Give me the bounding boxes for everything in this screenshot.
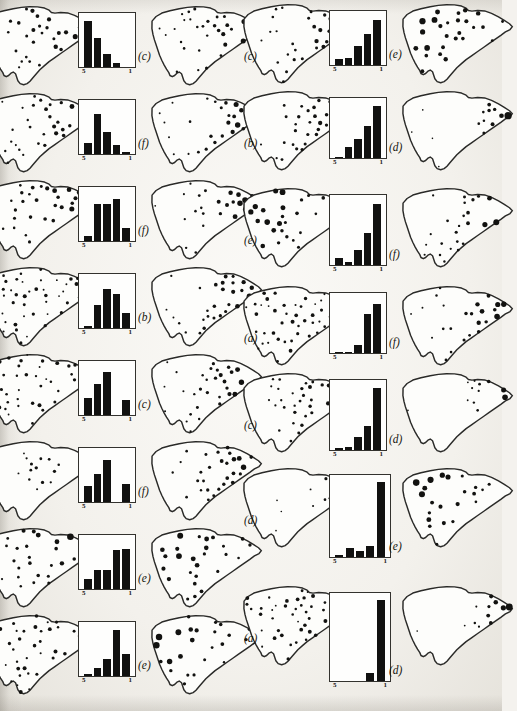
histogram-axis-labels: 51 — [78, 590, 136, 598]
map-symbol-dot — [311, 594, 315, 598]
histogram-bar — [122, 400, 129, 415]
map-symbol-dot — [228, 452, 231, 455]
map-symbol-dot — [191, 556, 196, 561]
map-symbol-dot — [493, 308, 497, 312]
map-symbol-dot — [17, 398, 19, 400]
map-symbol-dot — [293, 58, 296, 61]
map-symbol-dot — [62, 134, 66, 138]
map-symbol-dot — [216, 570, 219, 573]
map-symbol-dot — [214, 376, 217, 379]
map-symbol-dot — [39, 640, 42, 643]
axis-tick-right: 1 — [380, 265, 384, 273]
map-symbol-dot — [159, 660, 163, 664]
map-symbol-dot — [424, 54, 428, 58]
map-symbol-dot — [467, 399, 469, 401]
map-symbol-dot — [220, 642, 224, 646]
map-symbol-dot — [8, 414, 10, 416]
histogram-bar — [364, 126, 371, 158]
map-symbol-dot — [463, 490, 467, 494]
map-symbol-dot — [37, 142, 40, 145]
panel-label-right: (c) — [138, 50, 151, 62]
dot-map-right — [399, 184, 517, 272]
map-symbol-dot — [318, 321, 320, 323]
histogram-bar — [113, 63, 120, 68]
histogram-bar — [113, 630, 120, 676]
map-symbol-dot — [255, 312, 259, 316]
map-symbol-dot — [285, 235, 288, 238]
map-symbol-dot — [450, 351, 453, 354]
map-symbol-dot — [282, 304, 285, 307]
panel-label-right: (e) — [138, 659, 151, 671]
classification-histogram — [329, 474, 391, 558]
map-symbol-dot — [32, 312, 35, 315]
classification-histogram — [329, 592, 391, 682]
map-symbol-dot — [227, 634, 231, 638]
map-symbol-dot — [324, 601, 327, 604]
map-symbol-dot — [438, 52, 442, 56]
map-symbol-dot — [53, 400, 56, 403]
map-symbol-dot — [17, 472, 19, 474]
map-symbol-dot — [67, 187, 72, 192]
map-symbol-dot — [314, 303, 316, 305]
map-symbol-dot — [220, 106, 223, 109]
map-symbol-dot — [169, 669, 172, 672]
map-symbol-dot — [297, 325, 299, 327]
map-symbol-dot — [164, 386, 166, 388]
map-symbol-dot — [183, 193, 185, 195]
map-symbol-dot — [307, 591, 309, 593]
map-symbol-dot — [200, 589, 204, 593]
map-symbol-dot — [209, 367, 212, 370]
map-symbol-dot — [197, 69, 199, 71]
histogram-bar — [377, 600, 385, 681]
map-symbol-dot — [260, 607, 263, 610]
map-symbol-dot — [273, 636, 277, 640]
axis-tick-left: 5 — [82, 502, 86, 510]
map-symbol-dot — [501, 302, 506, 307]
panel-label-right: (e) — [389, 540, 402, 552]
map-symbol-dot — [202, 25, 205, 28]
histogram-bar — [354, 250, 361, 265]
histogram-axis-labels: 51 — [329, 159, 387, 167]
map-symbol-dot — [17, 364, 20, 367]
axis-tick-left: 5 — [82, 415, 86, 423]
map-symbol-dot — [202, 480, 205, 483]
map-symbol-dot — [420, 69, 424, 73]
map-symbol-dot — [321, 383, 324, 386]
map-symbol-dot — [250, 608, 253, 611]
histogram-bar — [84, 398, 91, 415]
map-symbol-dot — [189, 413, 192, 416]
map-symbol-dot — [275, 605, 277, 607]
map-symbol-dot — [450, 248, 452, 250]
map-symbol-dot — [305, 638, 307, 640]
map-symbol-dot — [31, 401, 34, 404]
map-symbol-dot — [177, 533, 183, 539]
map-symbol-dot — [227, 365, 230, 368]
map-symbol-dot — [302, 596, 305, 599]
map-symbol-dot — [28, 556, 31, 559]
map-symbol-dot — [299, 231, 302, 234]
map-symbol-dot — [174, 28, 176, 30]
map-symbol-dot — [195, 628, 199, 632]
map-symbol-dot — [291, 43, 294, 46]
map-symbol-dot — [188, 153, 190, 155]
histogram-bars — [330, 11, 386, 65]
map-symbol-dot — [206, 34, 208, 36]
map-symbol-dot — [57, 390, 59, 392]
state-outline — [403, 92, 512, 170]
map-symbol-dot — [222, 483, 225, 486]
histogram-bar — [94, 474, 101, 502]
map-symbol-dot — [271, 609, 273, 611]
map-symbol-dot — [487, 109, 490, 112]
map-symbol-dot — [57, 31, 61, 35]
map-symbol-dot — [196, 406, 199, 409]
map-symbol-dot — [7, 162, 9, 164]
map-symbol-dot — [303, 319, 307, 323]
map-symbol-dot — [489, 594, 493, 598]
dot-map-right — [399, 582, 517, 670]
panel-label-right: (f) — [138, 137, 149, 149]
panel-label-right: (d) — [389, 433, 402, 445]
map-symbol-dot — [23, 630, 26, 633]
map-symbol-dot — [218, 402, 221, 405]
histogram-bar — [122, 484, 129, 502]
